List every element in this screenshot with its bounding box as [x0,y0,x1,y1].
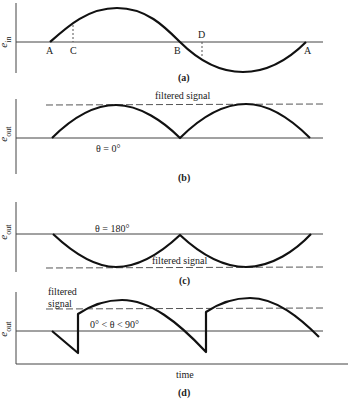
panel-d-theta-annotation: 0° < θ < 90° [90,320,139,330]
panel-b-rectified-output [52,104,310,138]
point-label-c: C [70,46,77,56]
panel-d-time-label: time [176,370,194,380]
panel-d-y-label: eout [0,322,13,337]
point-label-b: B [174,46,181,56]
y-label-sub: in [4,37,13,43]
panel-b-filtered-signal-line [46,104,323,105]
panel-a-input-sine [50,8,306,72]
panel-c-filtered-signal-label: filtered signal [152,256,207,266]
panel-c-filtered-signal-line [46,267,323,268]
y-label-main: e [0,137,9,142]
panel-b-caption: (b) [178,173,190,183]
panel-a-plot [16,3,323,73]
point-label-a-left: A [46,46,53,56]
panel-d-caption: (d) [178,388,190,398]
y-label-main: e [0,235,9,240]
y-label-sub: out [4,127,13,137]
y-label-sub: out [4,225,13,235]
panel-b-theta-annotation: θ = 0° [96,144,120,154]
panel-c-y-label: eout [0,225,13,240]
panel-b-y-label: eout [0,127,13,142]
panel-a-caption: (a) [178,73,190,83]
panel-d-filtered-label-line1: filtered [48,287,77,297]
point-label-a-right: A [304,46,311,56]
y-label-main: e [0,332,9,337]
panel-c-caption: (c) [179,276,190,286]
panel-d-filtered-label-line2: signal [48,299,72,309]
panel-b-plot [16,99,323,174]
y-label-sub: out [4,322,13,332]
panel-c-theta-annotation: θ = 180° [95,224,129,234]
demodulator-waveform-diagram [0,0,353,400]
panel-a-y-label: ein [0,37,13,48]
y-label-main: e [0,43,9,48]
point-label-d: D [198,30,205,40]
panel-b-filtered-signal-label: filtered signal [155,91,210,101]
